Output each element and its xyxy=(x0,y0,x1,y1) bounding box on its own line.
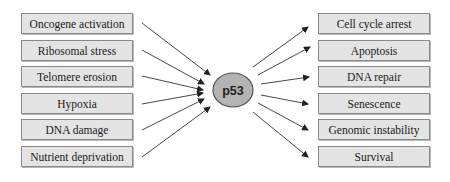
arrow-output-5 xyxy=(258,103,308,130)
input-box-ribosomal-stress: Ribosomal stress xyxy=(21,40,133,61)
arrow-output-2 xyxy=(258,47,310,75)
arrow-output-1 xyxy=(253,27,308,67)
input-box-nutrient-deprivation: Nutrient deprivation xyxy=(21,146,133,167)
output-box-apoptosis: Apoptosis xyxy=(318,40,430,61)
output-box-senescence: Senescence xyxy=(318,93,430,114)
input-box-telomere-erosion: Telomere erosion xyxy=(21,66,133,87)
output-box-survival: Survival xyxy=(318,146,430,167)
p53-hub-node: p53 xyxy=(213,73,253,107)
p53-signaling-diagram: p53 Oncogene activation Ribosomal stress… xyxy=(0,0,450,182)
arrow-input-5 xyxy=(142,99,204,130)
arrow-output-4 xyxy=(261,95,308,104)
arrow-input-1 xyxy=(142,23,210,75)
input-box-hypoxia: Hypoxia xyxy=(21,93,133,114)
arrow-output-3 xyxy=(261,77,309,84)
arrow-input-4 xyxy=(142,93,203,104)
p53-hub-label: p53 xyxy=(222,84,244,98)
arrow-input-2 xyxy=(142,50,204,84)
input-box-oncogene-activation: Oncogene activation xyxy=(21,13,133,34)
input-box-dna-damage: DNA damage xyxy=(21,119,133,140)
output-box-genomic-instability: Genomic instability xyxy=(318,119,430,140)
output-box-cell-cycle-arrest: Cell cycle arrest xyxy=(318,13,430,34)
arrow-input-6 xyxy=(142,107,210,157)
arrow-output-6 xyxy=(253,112,308,157)
output-box-dna-repair: DNA repair xyxy=(318,66,430,87)
